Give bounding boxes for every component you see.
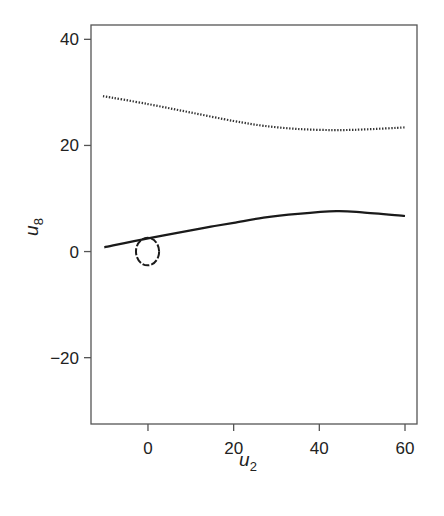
dotted-curve bbox=[103, 96, 405, 130]
plot-series bbox=[103, 96, 405, 265]
x-tick-label: 40 bbox=[310, 439, 329, 458]
y-tick-label: −20 bbox=[50, 349, 79, 368]
dashed-loop bbox=[136, 238, 159, 266]
y-axis-label: u8 bbox=[21, 218, 46, 236]
solid-curve bbox=[104, 211, 405, 247]
plot-frame bbox=[91, 25, 417, 424]
x-tick-label: 60 bbox=[396, 439, 415, 458]
y-tick-label: 40 bbox=[60, 30, 79, 49]
chart: 40200−20 0204060 u2 u8 bbox=[0, 0, 444, 516]
x-axis-label: u2 bbox=[239, 449, 257, 474]
x-tick-label: 0 bbox=[143, 439, 152, 458]
y-tick-label: 20 bbox=[60, 136, 79, 155]
x-axis-ticks: 0204060 bbox=[143, 424, 414, 458]
y-axis-ticks: 40200−20 bbox=[50, 30, 91, 367]
y-tick-label: 0 bbox=[70, 243, 79, 262]
